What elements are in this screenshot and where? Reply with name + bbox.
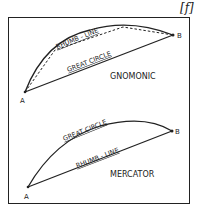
mercator-title: MERCATOR bbox=[110, 170, 155, 179]
gnomonic-label-b: B bbox=[177, 32, 182, 40]
mercator-panel: A B GREAT CIRCLE RHUMB - LINE MERCATOR bbox=[24, 118, 180, 201]
mercator-rhumb-line-label: RHUMB - LINE bbox=[75, 146, 120, 170]
mercator-label-a: A bbox=[24, 193, 29, 201]
gnomonic-great-circle-line bbox=[25, 35, 173, 92]
gnomonic-panel: A B RHUMB - LINE GREAT CIRCLE GNOMONIC bbox=[20, 25, 182, 105]
gnomonic-rhumb-line-label: RHUMB - LINE bbox=[55, 26, 100, 50]
gnomonic-label-a: A bbox=[20, 97, 25, 105]
gnomonic-title: GNOMONIC bbox=[110, 72, 156, 81]
mercator-label-b: B bbox=[175, 128, 180, 136]
gnomonic-point-a bbox=[24, 91, 27, 94]
mercator-point-a bbox=[27, 186, 30, 189]
mercator-great-circle-label: GREAT CIRCLE bbox=[62, 118, 108, 143]
projection-diagram: A B RHUMB - LINE GREAT CIRCLE GNOMONIC A… bbox=[0, 0, 203, 216]
gnomonic-point-b bbox=[172, 34, 175, 37]
mercator-point-b bbox=[171, 130, 174, 133]
